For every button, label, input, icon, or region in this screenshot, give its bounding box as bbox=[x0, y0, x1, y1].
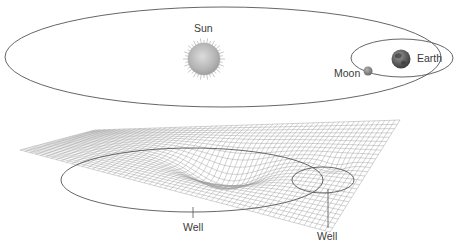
moon-label: Moon bbox=[334, 68, 360, 79]
moon-icon bbox=[364, 67, 373, 76]
diagram-canvas bbox=[0, 0, 459, 244]
earth-icon bbox=[392, 50, 411, 69]
earth-well-label: Well bbox=[317, 231, 337, 242]
gravity-diagram: Sun Earth Moon Well Well bbox=[0, 0, 459, 244]
earth-orbit bbox=[5, 7, 441, 107]
spacetime-grid bbox=[20, 120, 400, 232]
sun-icon bbox=[183, 38, 225, 79]
earth-label: Earth bbox=[417, 53, 442, 64]
sun-label: Sun bbox=[194, 23, 213, 34]
sun-well-label: Well bbox=[183, 222, 203, 233]
